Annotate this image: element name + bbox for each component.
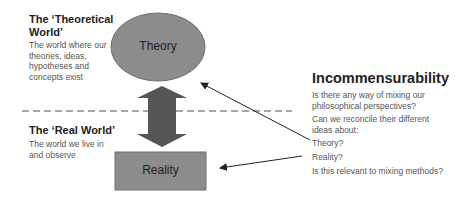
reality-label: Reality (115, 163, 206, 177)
text-line: Can we reconcile their different (312, 114, 456, 125)
real-world-description: The world we live in and observe (29, 139, 119, 160)
heading-line: World’ (29, 26, 114, 39)
theory-label: Theory (111, 39, 205, 53)
question-reconcile: Can we reconcile their different ideas a… (312, 114, 456, 135)
item-reality: Reality? (312, 152, 456, 163)
question-mixing: Is there any way of mixing our philosoph… (312, 90, 456, 111)
real-world-heading: The ‘Real World’ (29, 124, 119, 137)
item-theory: Theory? (312, 138, 456, 149)
theoretical-world-heading: The ‘Theoretical World’ (29, 13, 114, 39)
arrow-to-theory (201, 83, 310, 140)
description-line: theories, ideas, (29, 51, 114, 62)
description-line: concepts exist (29, 72, 114, 83)
theoretical-world-description: The world where our theories, ideas, hyp… (29, 40, 114, 82)
description-line: hypotheses and (29, 61, 114, 72)
incommensurability-block: Incommensurability Is there any way of m… (312, 70, 456, 177)
question-relevance: Is this relevant to mixing methods? (312, 166, 456, 177)
real-world-block: The ‘Real World’ The world we live in an… (29, 124, 119, 160)
arrow-to-reality (220, 156, 302, 168)
incommensurability-heading: Incommensurability (312, 70, 456, 87)
theoretical-world-block: The ‘Theoretical World’ The world where … (29, 13, 114, 82)
description-line: The world where our (29, 40, 114, 51)
description-line: The world we live in (29, 139, 119, 150)
double-arrow-icon (137, 86, 187, 147)
text-line: Is there any way of mixing our (312, 90, 456, 101)
text-line: ideas about: (312, 125, 456, 136)
description-line: and observe (29, 150, 119, 161)
text-line: philosophical perspectives? (312, 101, 456, 112)
heading-line: The ‘Theoretical (29, 13, 114, 26)
